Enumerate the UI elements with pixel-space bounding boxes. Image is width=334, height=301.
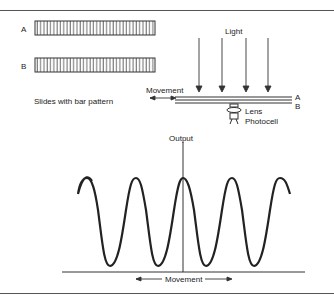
diagram-graphics [0,0,334,301]
slides-side-view [175,97,292,103]
lens-photocell-icon [227,104,241,124]
lens-label: Lens [245,107,262,116]
movement-label: Movement [146,86,183,95]
side-b-label: B [295,102,300,111]
photocell-label: Photocell [245,117,278,126]
light-label: Light [225,27,242,36]
output-axis-label: Output [169,134,193,143]
output-waveform [78,177,290,266]
movement-arrow-icon [150,96,176,100]
slide-b-label: B [21,62,26,71]
slide-a [35,21,155,35]
movement-axis-label: Movement [165,275,202,284]
slide-b [35,58,155,72]
side-a-label: A [295,93,300,102]
light-arrows-icon [196,38,271,92]
slides-caption: Slides with bar pattern [34,97,113,106]
